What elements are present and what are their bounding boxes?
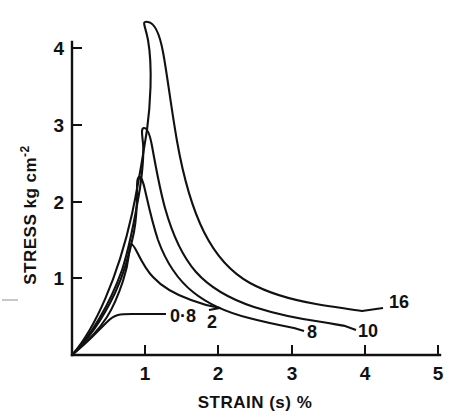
curve-2 [72, 244, 220, 355]
y-axis-title-main: STRESS kg cm [21, 157, 40, 285]
y-tick-label-4: 4 [53, 38, 64, 59]
curve-8-label: 8 [307, 322, 317, 342]
curve-10-label: 10 [358, 321, 378, 341]
curve-16-label: 16 [389, 292, 409, 312]
x-axis-tick-labels: 1 2 3 4 5 [140, 363, 444, 384]
x-tick-label-4: 4 [360, 363, 371, 384]
y-axis-title-exponent: -2 [18, 145, 32, 157]
curve-8-leader [294, 328, 304, 331]
figure-container: 1 2 3 4 1 2 3 4 5 STRAIN (s) % STRESS kg… [0, 0, 466, 418]
y-axis-ticks [72, 48, 82, 278]
x-tick-label-3: 3 [287, 363, 298, 384]
curve-group [72, 22, 362, 355]
y-tick-label-1: 1 [53, 268, 64, 289]
curve-label-group: 16 10 8 2 0·8 [143, 292, 409, 342]
y-tick-label-2: 2 [53, 192, 64, 213]
curve-16 [72, 22, 362, 355]
x-tick-label-2: 2 [213, 363, 224, 384]
x-axis-ticks [145, 345, 438, 355]
curve-16-leader [362, 308, 383, 311]
curve-08 [72, 314, 143, 355]
y-axis-title-group: STRESS kg cm-2 [18, 145, 40, 285]
curve-8 [72, 177, 294, 355]
y-axis-title: STRESS kg cm-2 [18, 145, 40, 285]
stress-strain-chart: 1 2 3 4 1 2 3 4 5 STRAIN (s) % STRESS kg… [0, 0, 466, 418]
x-tick-label-1: 1 [140, 363, 151, 384]
curve-10-leader [345, 326, 356, 330]
curve-08-label: 0·8 [170, 306, 196, 326]
curve-2-leader [209, 308, 220, 310]
x-tick-label-5: 5 [433, 363, 444, 384]
x-axis-title: STRAIN (s) % [198, 393, 313, 412]
y-tick-label-3: 3 [53, 115, 64, 136]
curve-2-label: 2 [207, 312, 217, 332]
x-axis-title-group: STRAIN (s) % [198, 393, 313, 412]
y-axis-tick-labels: 1 2 3 4 [53, 38, 64, 289]
